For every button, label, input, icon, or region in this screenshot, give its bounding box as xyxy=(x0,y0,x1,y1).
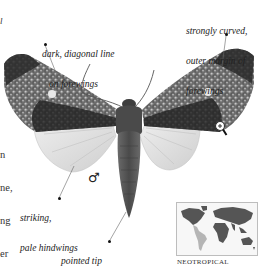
annotation-line: pointed tip xyxy=(61,256,108,266)
clipped-text-top: l xyxy=(0,16,3,27)
annotation-line: outer margin of xyxy=(186,56,247,66)
range-map xyxy=(176,202,258,256)
annotation-dot xyxy=(108,240,111,243)
clipped-text-line: er xyxy=(0,248,13,259)
range-map-caption: NEOTROPICAL xyxy=(177,258,229,266)
magnifier-plus-icon[interactable] xyxy=(214,120,228,138)
male-symbol: ♂ xyxy=(88,170,100,185)
annotation-outer-margin: strongly curved, outer margin of forewin… xyxy=(186,6,247,106)
clipped-text-line: ng xyxy=(0,215,13,226)
annotation-line: dark, diagonal line xyxy=(42,49,115,59)
world-map xyxy=(177,203,257,255)
annotation-abdomen: pointed tip to abdomen xyxy=(61,236,108,269)
moth-abdomen xyxy=(118,131,141,218)
annotation-line: striking, xyxy=(20,213,78,223)
annotation-line: strongly curved, xyxy=(186,26,247,36)
neotropical-region xyxy=(193,225,207,251)
annotation-forewing-line: dark, diagonal line on forewings xyxy=(42,29,115,99)
clipped-text-line: ne, xyxy=(0,182,13,193)
annotation-line: forewings xyxy=(186,86,247,96)
clipped-text-line: n xyxy=(0,149,13,160)
leader-abdomen xyxy=(110,212,126,240)
clipped-text-block: n ne, ng er xyxy=(0,127,13,269)
annotation-line: on forewings xyxy=(42,79,115,89)
